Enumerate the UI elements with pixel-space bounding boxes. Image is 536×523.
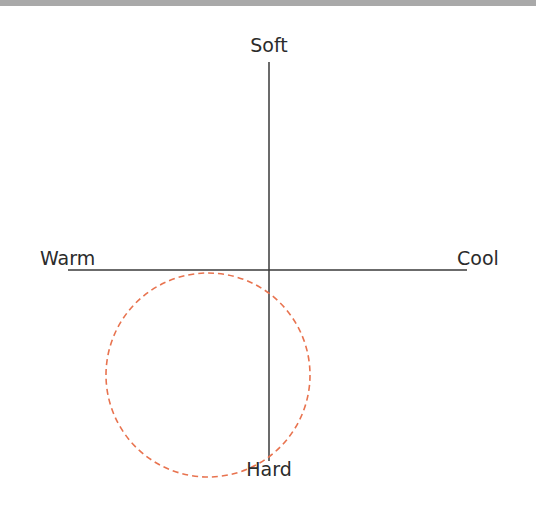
highlight-dashed-circle (106, 273, 310, 477)
axis-label-hard: Hard (246, 460, 291, 479)
axis-label-cool: Cool (457, 249, 499, 268)
axis-label-warm: Warm (40, 249, 95, 268)
axis-label-soft: Soft (250, 36, 288, 55)
